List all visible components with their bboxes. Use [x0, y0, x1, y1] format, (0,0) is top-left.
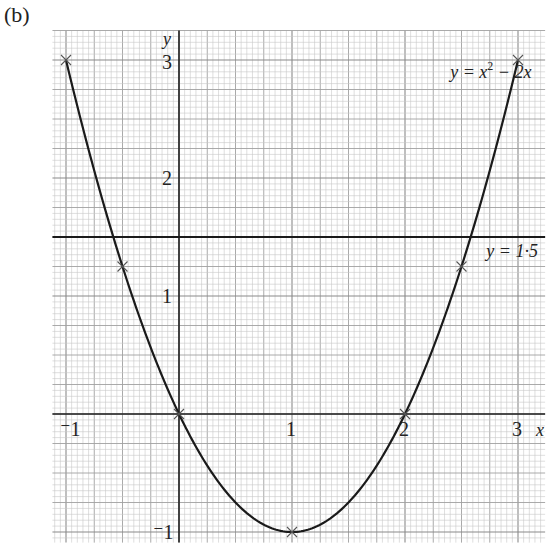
x-tick-label: ⁻1 — [60, 418, 81, 440]
x-tick-label: 3 — [512, 418, 522, 440]
chart: ⁻1123⁻1123 y = x2 − 2x y = 1·5 x y — [0, 0, 550, 543]
y-tick-label: 3 — [162, 51, 172, 73]
x-tick-label: 1 — [286, 418, 296, 440]
horizontal-line-label: y = 1·5 — [484, 241, 538, 261]
y-tick-label: ⁻1 — [153, 521, 174, 543]
y-axis-label: y — [161, 29, 171, 49]
graph-paper-grid — [52, 31, 545, 543]
x-axis-label: x — [535, 420, 544, 440]
y-tick-label: 1 — [162, 285, 172, 307]
y-tick-label: 2 — [162, 167, 172, 189]
